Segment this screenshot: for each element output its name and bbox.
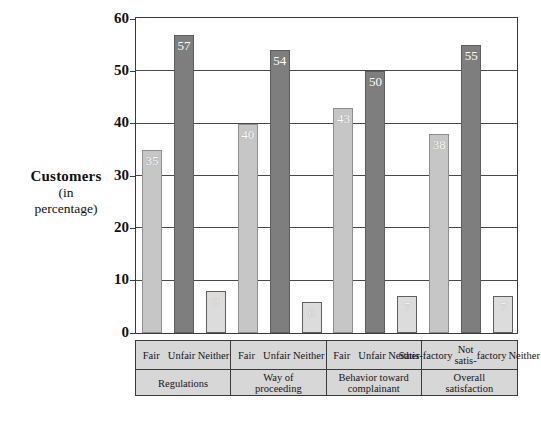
category-label-2-0: Fair	[327, 341, 357, 369]
category-label-line: Fair	[333, 350, 350, 361]
bar-value-label: 43	[334, 112, 352, 126]
category-label-line: Neither	[293, 350, 325, 361]
y-tick-label-20: 20	[101, 219, 129, 236]
category-label-line: Neither	[508, 350, 540, 361]
category-label-line: Unfair	[168, 350, 195, 361]
category-label-line: Unfair	[263, 350, 290, 361]
group-label-line: Behavior toward	[338, 372, 408, 383]
category-label-line: Not satis-	[455, 344, 477, 366]
category-label-row: FairUnfairNeitherFairUnfairNeitherFairUn…	[136, 341, 517, 370]
bar-2-1[interactable]: 50	[365, 71, 385, 333]
y-tick-mark-60	[130, 19, 136, 20]
bar-value-label: 7	[398, 300, 416, 314]
y-tick-label-10: 10	[101, 271, 129, 288]
group-label-line: Regulations	[158, 378, 208, 389]
category-label-line: Fair	[143, 350, 160, 361]
category-label-2-1: Unfair	[357, 341, 387, 369]
category-group-cell-0: FairUnfairNeither	[136, 341, 231, 369]
bar-value-label: 54	[271, 54, 289, 68]
y-tick-label-40: 40	[101, 114, 129, 131]
bar-1-1[interactable]: 54	[270, 50, 290, 333]
bar-3-0[interactable]: 38	[429, 134, 449, 333]
bar-3-1[interactable]: 55	[461, 45, 481, 333]
group-label-3: Overallsatisfaction	[422, 370, 517, 396]
y-tick-mark-30	[130, 176, 136, 177]
category-label-line: Neither	[198, 350, 230, 361]
plot-area: 35578405464350738557	[135, 17, 518, 334]
group-label-line: Way of	[255, 372, 302, 383]
category-label-0-2: Neither	[197, 341, 231, 369]
group-label-line: complainant	[338, 383, 408, 394]
group-label-line: proceeding	[255, 383, 302, 394]
bar-1-2[interactable]: 6	[302, 302, 322, 333]
group-label-line: Overall	[445, 372, 493, 383]
category-label-line: factory	[477, 350, 507, 361]
y-tick-label-30: 30	[101, 167, 129, 184]
group-label-1: Way ofproceeding	[231, 370, 326, 396]
bar-value-label: 8	[207, 295, 225, 309]
bar-value-label: 7	[494, 300, 512, 314]
category-group-cell-1: FairUnfairNeither	[231, 341, 326, 369]
y-tick-mark-40	[130, 123, 136, 124]
category-label-1-1: Unfair	[262, 341, 292, 369]
bar-2-2[interactable]: 7	[397, 296, 417, 333]
category-group-cell-3: Satis-factoryNot satis-factoryNeither	[422, 341, 517, 369]
category-label-0-0: Fair	[136, 341, 166, 369]
y-tick-label-0: 0	[101, 324, 129, 341]
y-axis: 0102030405060	[99, 17, 129, 334]
category-label-line: Fair	[238, 350, 255, 361]
bar-value-label: 6	[303, 306, 321, 320]
category-label-line: factory	[423, 350, 453, 361]
bar-2-0[interactable]: 43	[333, 108, 353, 333]
category-label-1-0: Fair	[231, 341, 261, 369]
y-tick-mark-10	[130, 280, 136, 281]
category-label-line: Satis-	[399, 350, 423, 361]
y-tick-mark-20	[130, 228, 136, 229]
bar-0-0[interactable]: 35	[142, 150, 162, 333]
y-tick-label-50: 50	[101, 62, 129, 79]
bar-0-1[interactable]: 57	[174, 35, 194, 333]
bar-3-2[interactable]: 7	[493, 296, 513, 333]
category-label-3-1: Not satis-factory	[454, 341, 508, 369]
category-label-3-0: Satis-factory	[398, 341, 454, 369]
y-tick-label-60: 60	[101, 10, 129, 27]
category-label-1-2: Neither	[292, 341, 326, 369]
bar-value-label: 57	[175, 39, 193, 53]
category-label-table: FairUnfairNeitherFairUnfairNeitherFairUn…	[135, 340, 518, 396]
bar-value-label: 35	[143, 154, 161, 168]
y-tick-mark-0	[130, 333, 136, 334]
group-label-0: Regulations	[136, 370, 231, 396]
bar-0-2[interactable]: 8	[206, 291, 226, 333]
category-label-3-2: Neither	[507, 341, 541, 369]
group-label-row: RegulationsWay ofproceedingBehavior towa…	[136, 370, 517, 396]
bar-value-label: 38	[430, 138, 448, 152]
bar-1-0[interactable]: 40	[238, 124, 258, 333]
category-label-line: Unfair	[358, 350, 385, 361]
category-label-0-1: Unfair	[166, 341, 196, 369]
bar-value-label: 55	[462, 49, 480, 63]
bar-value-label: 40	[239, 128, 257, 142]
group-label-line: satisfaction	[445, 383, 493, 394]
bar-value-label: 50	[366, 75, 384, 89]
y-tick-mark-50	[130, 71, 136, 72]
group-label-2: Behavior towardcomplainant	[327, 370, 422, 396]
